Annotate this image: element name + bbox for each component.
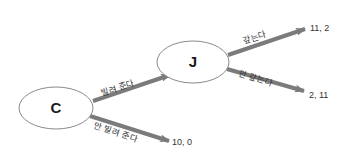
node-j-label: J xyxy=(189,53,197,70)
node-c: C xyxy=(19,87,93,129)
node-j: J xyxy=(157,41,229,83)
payoff-j-no-repay: 2, 11 xyxy=(309,90,328,100)
payoff-j-repay: 11, 2 xyxy=(310,23,329,33)
edge-j-repay-arrow xyxy=(228,29,305,55)
payoff-c-no-lend: 10, 0 xyxy=(172,137,192,147)
edge-label-lend: 빌려 준다 xyxy=(100,78,136,98)
node-c-label: C xyxy=(51,99,62,116)
edge-label-no-repay: 안 갚는다 xyxy=(237,68,273,88)
game-tree-diagram: C J 빌려 준다 안 빌려 준다 갚는다 안 갚는다 10, 0 11, 2 … xyxy=(0,0,350,163)
